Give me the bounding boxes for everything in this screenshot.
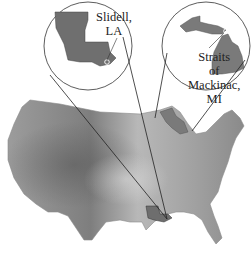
mackinac-label-line2: of: [188, 64, 240, 78]
mackinac-label-line3: Mackinac,: [188, 78, 240, 92]
mackinac-label: Straits of Mackinac, MI: [188, 50, 240, 106]
us-map-figure: [0, 0, 251, 263]
mackinac-label-line1: Straits: [188, 50, 240, 64]
slidell-label-line2: LA: [96, 24, 132, 38]
slidell-label: Slidell, LA: [96, 10, 132, 38]
us-mainland-map: [8, 100, 244, 244]
slidell-label-line1: Slidell,: [96, 10, 132, 24]
mackinac-label-line4: MI: [188, 92, 240, 106]
